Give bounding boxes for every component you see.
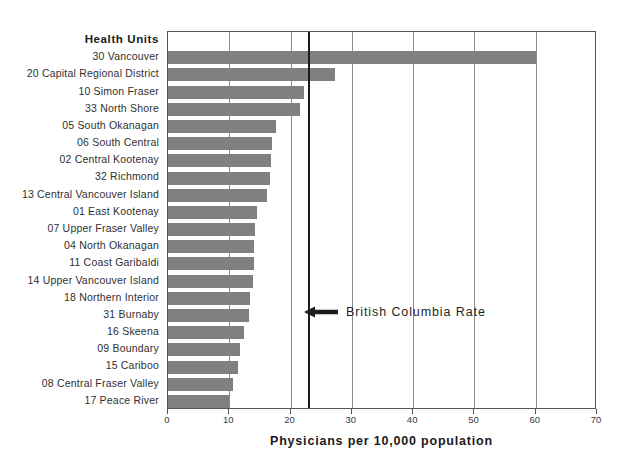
x-axis-tick-labels: 010203040506070 [167,414,596,428]
category-label: 10 Simon Fraser [78,83,159,101]
x-tick-label: 10 [223,414,234,425]
category-label: 32 Richmond [95,168,159,186]
category-label: 31 Burnaby [103,306,159,324]
category-label: 15 Cariboo [106,357,159,375]
x-tick-label: 20 [284,414,295,425]
bar [168,223,255,236]
category-label: 16 Skeena [107,323,159,341]
x-tick-label: 70 [591,414,602,425]
bar [168,343,240,356]
bar [168,275,253,288]
category-label: 33 North Shore [85,100,159,118]
category-label: 04 North Okanagan [64,237,159,255]
category-label: 02 Central Kootenay [59,151,159,169]
british-columbia-rate-annotation: British Columbia Rate [304,302,486,322]
category-label: 09 Boundary [97,340,159,358]
gridline-50 [474,32,475,408]
category-label: 30 Vancouver [93,48,159,66]
x-tick-label: 40 [407,414,418,425]
bar [168,361,238,374]
bar [168,51,536,64]
bar [168,103,300,116]
bar [168,154,271,167]
category-label: 18 Northern Interior [64,289,159,307]
bar [168,326,244,339]
category-label: 01 East Kootenay [73,203,159,221]
category-label: 05 South Okanagan [62,117,159,135]
bar [168,240,254,253]
category-label: 07 Upper Fraser Valley [47,220,159,238]
x-tick-label: 30 [346,414,357,425]
x-tick-label: 60 [529,414,540,425]
category-label: 08 Central Fraser Valley [42,375,159,393]
bar [168,206,257,219]
x-tick-label: 50 [468,414,479,425]
gridline-40 [413,32,414,408]
category-label: 13 Central Vancouver Island [22,186,159,204]
british-columbia-rate-line [308,32,310,408]
annotation-label: British Columbia Rate [346,305,486,319]
category-label: 14 Upper Vancouver Island [28,272,159,290]
category-label: 20 Capital Regional District [27,65,159,83]
bar [168,309,249,322]
category-label: 06 South Central [77,134,159,152]
gridline-30 [352,32,353,408]
x-tick-label: 0 [164,414,169,425]
physicians-bar-chart: Health Units 30 Vancouver20 Capital Regi… [0,0,629,475]
gridline-60 [536,32,537,408]
bar [168,189,267,202]
x-axis-label: Physicians per 10,000 population [167,434,596,448]
bar [168,137,272,150]
bar [168,395,229,408]
bar [168,120,276,133]
plot-area [167,31,596,409]
category-label-column: Health Units 30 Vancouver20 Capital Regi… [0,31,163,409]
bar [168,172,270,185]
category-axis-header: Health Units [85,31,159,49]
bar [168,257,254,270]
category-label: 11 Coast Garibaldi [69,254,159,272]
arrow-left-icon [304,306,338,318]
bar [168,68,335,81]
bar [168,378,233,391]
bar [168,292,250,305]
category-label: 17 Peace River [84,392,159,410]
bar [168,86,304,99]
